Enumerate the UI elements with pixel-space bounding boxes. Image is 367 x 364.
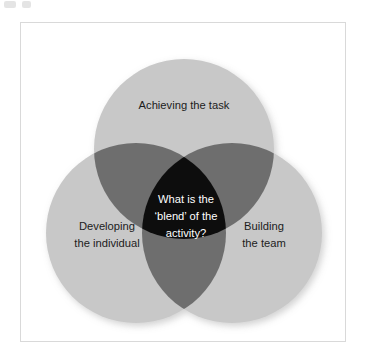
page-top-artifact bbox=[4, 0, 38, 9]
label-blend-question-line2: ‘blend’ of the bbox=[154, 210, 217, 222]
figure-frame: Achieving the task Developing the indivi… bbox=[20, 22, 346, 342]
label-building-the-team-line1: Building bbox=[244, 220, 284, 232]
artifact-mark-1 bbox=[4, 1, 16, 8]
label-blend-question-line3: activity? bbox=[166, 227, 206, 239]
artifact-mark-2 bbox=[22, 1, 31, 8]
label-developing-the-individual-line1: Developing bbox=[79, 220, 135, 232]
label-blend-question-line1: What is the bbox=[158, 193, 214, 205]
label-building-the-team-line2: the team bbox=[242, 237, 286, 249]
label-achieving-the-task: Achieving the task bbox=[139, 99, 230, 111]
label-developing-the-individual-line2: the individual bbox=[74, 237, 139, 249]
venn-diagram: Achieving the task Developing the indivi… bbox=[21, 23, 347, 343]
